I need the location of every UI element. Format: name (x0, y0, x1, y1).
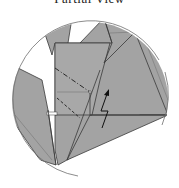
fold-reference-point (89, 91, 91, 93)
origami-diagram (0, 0, 179, 188)
paper-layers (5, 18, 170, 165)
paper-top-middle-flap (80, 18, 112, 43)
paper-left-flap (5, 68, 56, 165)
